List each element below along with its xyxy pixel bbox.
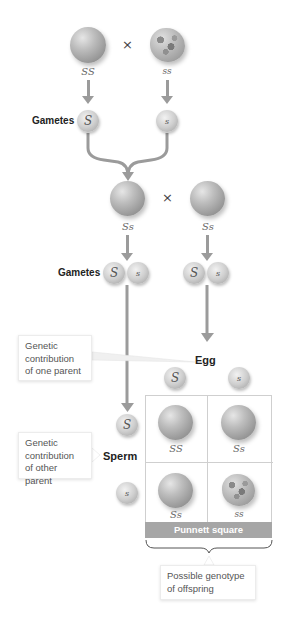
grid-divider-vertical [207, 396, 208, 523]
round-seed-parent-ss-dominant [70, 27, 106, 63]
gametes-label: Gametes [58, 267, 100, 278]
callout-line: Possible genotype [167, 570, 249, 583]
round-seed-f1-heterozygous [110, 181, 145, 216]
offspring-Ss [221, 405, 256, 440]
arrow-down [126, 235, 129, 255]
callout-line: Genetic [25, 340, 85, 353]
genotype-label: Ss [188, 221, 228, 232]
gametes-label: Gametes [32, 115, 74, 126]
offspring-Ss [158, 473, 193, 508]
gamete-s: s [156, 110, 178, 132]
callout-line: of one parent [25, 365, 85, 378]
callout-line: contribution [25, 450, 85, 463]
sperm-gamete-s: s [116, 482, 138, 504]
gamete-S: S [183, 262, 205, 284]
callout-offspring: Possible genotype of offspring [160, 565, 256, 600]
arrow-head [161, 96, 173, 104]
gamete-S: S [77, 110, 99, 132]
egg-gamete-S: S [164, 367, 186, 389]
cross-symbol: × [162, 190, 173, 205]
genotype-label: ss [147, 66, 187, 76]
cross-symbol: × [122, 37, 133, 52]
sperm-label: Sperm [103, 450, 137, 462]
offspring-SS [158, 405, 193, 440]
arrow-head [201, 253, 213, 261]
offspring-ss-wrinkled [222, 474, 255, 506]
arrow-head [82, 96, 94, 104]
callout-line: of other parent [25, 462, 85, 487]
grid-divider-horizontal [146, 462, 273, 463]
genotype-label: Ss [108, 221, 148, 232]
egg-gamete-s: s [228, 367, 250, 389]
egg-label: Egg [195, 354, 216, 366]
round-seed-f1-heterozygous [190, 181, 225, 216]
callout-one-parent: Genetic contribution of one parent [18, 335, 92, 381]
callout-line: Genetic [25, 437, 85, 450]
offspring-genotype: Ss [219, 443, 259, 454]
gamete-s: s [207, 262, 229, 284]
callout-line: of offspring [167, 583, 249, 596]
arrow-head [121, 253, 133, 261]
arrow-down [206, 235, 209, 255]
punnett-square-label: Punnett square [145, 522, 272, 538]
callout-other-parent: Genetic contribution of other parent [18, 432, 92, 479]
callout-line: contribution [25, 353, 85, 366]
sperm-gamete-S: S [116, 414, 138, 436]
gamete-S: S [103, 262, 125, 284]
wrinkled-seed-parent [150, 28, 185, 62]
offspring-genotype: Ss [156, 509, 196, 520]
genotype-label: SS [68, 66, 108, 77]
gamete-s: s [127, 262, 149, 284]
offspring-genotype: SS [156, 443, 196, 454]
offspring-genotype: ss [219, 509, 259, 519]
